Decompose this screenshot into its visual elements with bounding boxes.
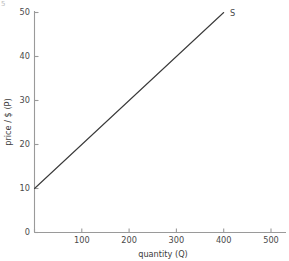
y-axis-ticks: [35, 13, 39, 233]
x-tick-label-200: 200: [121, 235, 137, 245]
x-tick-label-300: 300: [169, 235, 185, 245]
x-tick-label-400: 400: [216, 235, 232, 245]
supply-curve-line: [35, 13, 224, 189]
x-axis-tick-labels: 100 200 300 400 500: [74, 235, 279, 245]
supply-curve-figure: 5 0 10 20 30 40 50: [0, 0, 289, 261]
x-tick-label-100: 100: [74, 235, 90, 245]
corner-mark: 5: [1, 0, 5, 8]
y-tick-label-10: 10: [20, 183, 30, 193]
y-axis-tick-labels: 0 10 20 30 40 50: [20, 7, 30, 237]
y-tick-label-40: 40: [20, 51, 30, 61]
y-tick-label-20: 20: [20, 139, 30, 149]
chart-canvas: 5 0 10 20 30 40 50: [0, 0, 289, 261]
y-axis-title: price / $ (P): [3, 98, 13, 145]
x-axis-ticks: [35, 229, 272, 233]
supply-curve-label: S: [230, 8, 235, 18]
y-tick-label-0: 0: [25, 227, 30, 237]
x-tick-label-500: 500: [263, 235, 279, 245]
y-tick-label-30: 30: [20, 95, 30, 105]
y-tick-label-50: 50: [20, 7, 30, 17]
x-axis-title: quantity (Q): [138, 249, 188, 259]
